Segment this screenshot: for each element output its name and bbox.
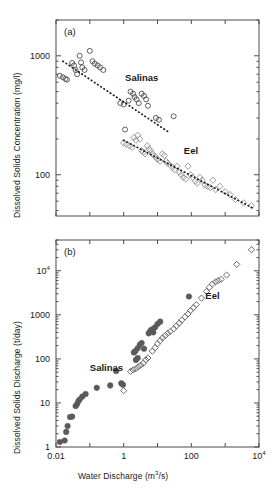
svg-text:(a): (a) [64, 26, 76, 37]
annotation-salinas: Salinas [125, 72, 158, 83]
svg-text:100: 100 [35, 354, 50, 364]
panel-a-y-axis-title: Dissolved Solids Concentration (mg/l) [12, 73, 22, 218]
svg-text:0.01: 0.01 [47, 451, 65, 461]
svg-text:(b): (b) [64, 246, 76, 257]
figure-container: Dissolved Solids Concentration (mg/l) 10… [0, 0, 274, 489]
svg-text:100: 100 [184, 451, 199, 461]
svg-text:100: 100 [35, 170, 50, 180]
panel-b-x-axis-title: Water Discharge (m3/s) [78, 470, 168, 481]
series-salinas [57, 48, 176, 132]
svg-text:1000: 1000 [30, 51, 50, 61]
series-eel [121, 247, 255, 394]
panel-a: Dissolved Solids Concentration (mg/l) 10… [0, 0, 274, 232]
svg-text:104: 104 [252, 449, 266, 461]
annotation-eel: Eel [184, 145, 198, 156]
panel-b: Dissolved Solids Discharge (t/day) 11010… [0, 232, 274, 489]
panel-a-plot: 1000100(a)SalinasEel [0, 0, 274, 232]
series-salinas [57, 294, 192, 445]
svg-text:104: 104 [37, 264, 51, 276]
series-eel [121, 132, 255, 209]
svg-text:1000: 1000 [30, 310, 50, 320]
panel-b-plot: 11010010001040.011100104(b)SalinasEel [0, 232, 274, 489]
panel-b-y-axis-title: Dissolved Solids Discharge (t/day) [12, 321, 22, 454]
annotation-salinas: Salinas [90, 362, 123, 373]
svg-text:1: 1 [121, 451, 126, 461]
svg-text:10: 10 [40, 398, 50, 408]
annotation-eel: Eel [205, 290, 219, 301]
